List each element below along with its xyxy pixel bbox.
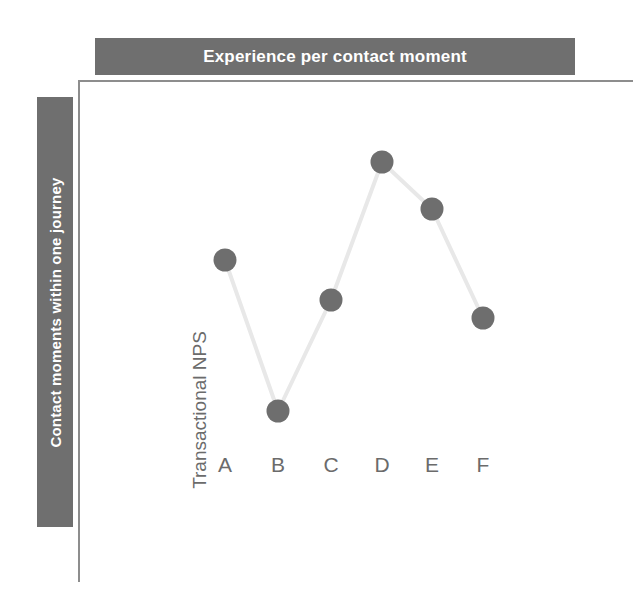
series-line-path: [225, 162, 483, 411]
data-point-markers: [214, 151, 495, 423]
data-point-a[interactable]: [214, 249, 237, 272]
top-banner: Experience per contact moment: [95, 38, 575, 75]
data-point-d[interactable]: [371, 151, 394, 174]
data-point-f[interactable]: [472, 307, 495, 330]
line-chart: Transactional NPS ABCDEF: [80, 82, 633, 582]
diagram-canvas: Experience per contact moment Contact mo…: [0, 0, 640, 592]
left-banner-label: Contact moments within one journey: [47, 177, 64, 447]
data-point-c[interactable]: [320, 289, 343, 312]
plot-svg: [80, 82, 633, 582]
top-banner-label: Experience per contact moment: [203, 47, 467, 67]
left-banner: Contact moments within one journey: [37, 97, 73, 527]
data-point-b[interactable]: [267, 400, 290, 423]
data-point-e[interactable]: [421, 198, 444, 221]
